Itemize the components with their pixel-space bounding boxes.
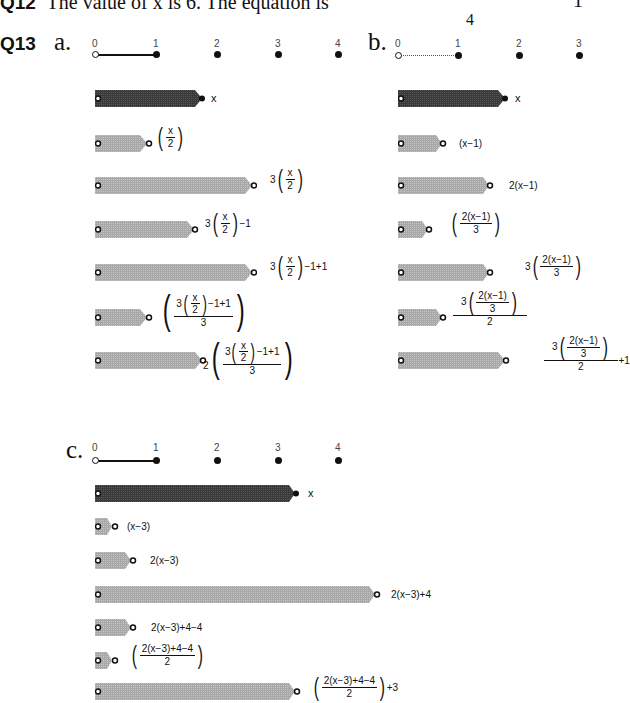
q12-line: Q12 The value of x is 6. The equation is… <box>0 0 329 14</box>
expr-2-x-minus-1: 2(x−1) <box>509 180 538 191</box>
unit-segment <box>96 54 156 56</box>
bar-light <box>95 352 207 369</box>
point <box>576 52 583 59</box>
bar-light <box>398 177 494 194</box>
expr-x: x <box>211 92 217 104</box>
expr-part-b-row7: 3(2(x−1)3)2+1 <box>543 334 630 373</box>
expr-2-x-minus-3-plus-4-minus-4: 2(x−3)+4−4 <box>151 622 202 633</box>
tick-label: 1 <box>455 38 461 49</box>
part-a-label: a. <box>54 28 71 56</box>
bar-light <box>398 309 448 326</box>
expr-part-b-row6: 3(2(x−1)3)2 <box>452 289 528 328</box>
q12-label: Q12 <box>0 0 36 13</box>
tick-label: 4 <box>335 38 341 49</box>
part-c-label: c. <box>66 436 83 464</box>
bar-light <box>398 221 434 238</box>
point <box>153 457 160 464</box>
bar-dark <box>398 90 510 107</box>
expr-x: x <box>515 92 521 104</box>
point <box>455 52 462 59</box>
expr-3-x-over-2-minus-1-plus-1: 3(x2)−1+1 <box>270 253 327 279</box>
expr-2-x-minus-1-over-3: (2(x−1)3) <box>450 210 502 236</box>
tick-label: 4 <box>335 442 341 453</box>
expr-part-a-row6: ( 3(x2)−1+13 ) <box>160 290 247 330</box>
expr-x-over-2: (x2) <box>156 124 185 150</box>
q12-text: The value of x is 6. The equation is <box>47 0 329 13</box>
expr-3-times-2-x-minus-1-over-3: 3(2(x−1)3) <box>525 253 583 279</box>
bar-light <box>95 264 257 281</box>
bar-light <box>95 619 137 636</box>
tick-label: 0 <box>395 38 401 49</box>
point <box>275 457 282 464</box>
expr-part-c-row6: (2(x−3)+4−42) <box>130 642 205 668</box>
point <box>516 52 523 59</box>
tick-label: 1 <box>153 38 159 49</box>
bar-light <box>95 683 301 700</box>
bar-dark <box>95 485 301 502</box>
bar-light <box>95 652 119 669</box>
tick-label: 2 <box>214 442 220 453</box>
expr-x: x <box>308 487 314 499</box>
q13-label: Q13 <box>0 33 36 55</box>
part-b-label: b. <box>368 28 387 56</box>
expr-part-a-row7: 2( 3(x2)−1+13 ) <box>203 338 296 378</box>
bar-light <box>95 309 155 326</box>
bar-light <box>95 177 257 194</box>
tick-label: 0 <box>92 38 98 49</box>
q12-rhs: 1 <box>573 0 583 12</box>
bar-light <box>95 518 119 535</box>
point <box>153 51 160 58</box>
expr-2-x-minus-3-plus-4: 2(x−3)+4 <box>391 589 431 600</box>
open-point <box>92 457 99 464</box>
tick-label: 3 <box>275 442 281 453</box>
tick-label: 3 <box>275 38 281 49</box>
tick-label: 2 <box>516 38 522 49</box>
point <box>335 457 342 464</box>
expr-part-c-row7: (2(x−3)+4−42)+3 <box>312 674 398 700</box>
point <box>275 51 282 58</box>
tick-label: 0 <box>92 442 98 453</box>
bar-light <box>95 221 199 238</box>
point <box>214 51 221 58</box>
unit-segment <box>96 460 156 462</box>
expr-3-x-over-2: 3(x2) <box>270 166 304 192</box>
open-point <box>395 52 402 59</box>
bar-light <box>95 586 381 603</box>
point <box>335 51 342 58</box>
bar-light <box>95 552 137 569</box>
bar-light <box>398 264 494 281</box>
expr-x-minus-1: (x−1) <box>459 138 482 149</box>
bar-light <box>95 135 155 152</box>
bar-dark <box>95 90 207 107</box>
bar-light <box>398 135 448 152</box>
tick-label: 1 <box>153 442 159 453</box>
q12-fraction-denominator: 4 <box>466 11 474 29</box>
expr-2-x-minus-3: 2(x−3) <box>150 555 179 566</box>
point <box>214 457 221 464</box>
tick-label: 3 <box>576 38 582 49</box>
tick-label: 2 <box>214 38 220 49</box>
bar-light <box>398 352 510 369</box>
expr-3-x-over-2-minus-1: 3(x2)−1 <box>205 210 251 236</box>
open-point <box>92 51 99 58</box>
expr-x-minus-3: (x−3) <box>127 521 150 532</box>
unit-segment <box>400 55 458 56</box>
